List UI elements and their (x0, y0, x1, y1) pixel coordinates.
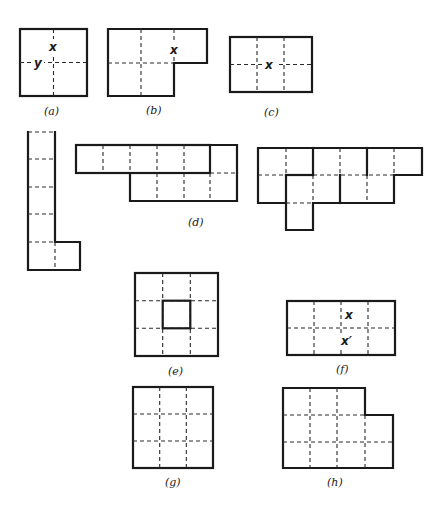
panel-f-label: (f) (336, 363, 349, 376)
panel-e-outline (135, 273, 218, 356)
panel-h-label: (h) (327, 476, 343, 489)
panel-g-label: (g) (165, 476, 181, 489)
panel-d-l-shape (28, 132, 80, 270)
panel-a-mark-y: y (34, 56, 43, 70)
panel-e: (e) (135, 273, 218, 378)
panel-d-strip-top (76, 145, 210, 173)
panel-a: x y (a) (20, 29, 87, 118)
panel-f: x x′ (f) (287, 301, 395, 376)
panel-d-l-outline (28, 132, 80, 270)
panel-d-strips: (d) (76, 145, 237, 229)
panel-a-mark-x: x (48, 40, 58, 54)
panel-f-mark-x: x (344, 308, 354, 322)
panel-c-mark-x: x (264, 58, 274, 72)
panel-g: (g) (133, 387, 213, 489)
panel-b-label: (b) (146, 104, 162, 117)
panel-d-composite (258, 148, 422, 230)
panel-h: (h) (283, 388, 393, 489)
panel-e-center-cell (163, 301, 191, 329)
polyomino-figure: x y (a) x (b) x (c) (0, 0, 445, 518)
panel-e-label: (e) (168, 365, 183, 378)
panel-b-mark-x: x (169, 43, 179, 57)
panel-b: x (b) (108, 29, 207, 117)
panel-a-label: (a) (44, 105, 59, 118)
panel-g-outline (133, 387, 213, 468)
panel-h-outline (283, 388, 393, 468)
panel-f-mark-x-prime: x′ (340, 334, 353, 348)
panel-c-label: (c) (264, 106, 279, 119)
panel-c: x (c) (230, 37, 312, 119)
panel-d-label: (d) (188, 216, 204, 229)
